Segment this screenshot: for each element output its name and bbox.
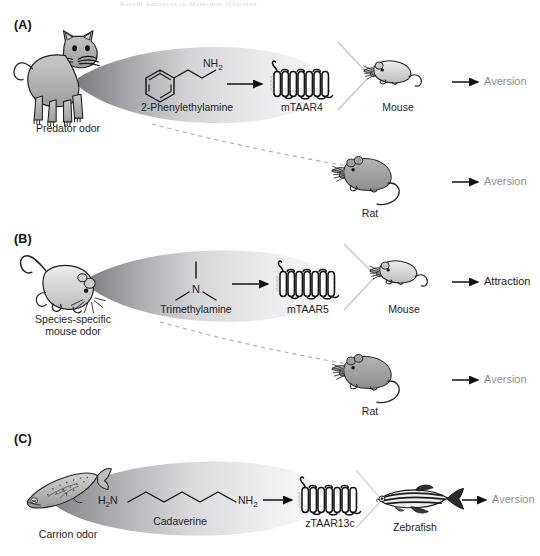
mouse-illustration-a bbox=[364, 61, 422, 86]
ligand-name-b: Trimethylamine bbox=[160, 303, 231, 315]
source-label-b-line2: mouse odor bbox=[45, 325, 100, 337]
outcome-b-mouse: Attraction bbox=[484, 275, 530, 287]
source-label-c: Carrion odor bbox=[39, 528, 97, 540]
panel-label-c: (C) bbox=[14, 432, 32, 446]
animal-label-b-mouse: Mouse bbox=[388, 303, 420, 315]
nh-sub-a: 2 bbox=[218, 63, 222, 72]
nh-sub-c: 2 bbox=[253, 500, 257, 509]
animal-label-b-rat: Rat bbox=[362, 405, 378, 417]
receptor-label-c: zTAAR13c bbox=[305, 517, 354, 529]
h-label-c: H bbox=[98, 494, 106, 506]
source-mouse-illustration bbox=[21, 256, 106, 313]
nh-label-c: NH bbox=[238, 494, 253, 506]
zebrafish-illustration bbox=[377, 485, 464, 513]
receptor-label-b: mTAAR5 bbox=[287, 303, 329, 315]
ligand-name-c: Cadaverine bbox=[153, 515, 207, 527]
animal-label-c: Zebrafish bbox=[393, 521, 437, 533]
outcome-c: Aversion bbox=[492, 493, 535, 505]
figure-artwork bbox=[0, 0, 540, 556]
ligand-amine-group-a: NH2 bbox=[203, 57, 223, 74]
panel-label-b: (B) bbox=[14, 232, 32, 246]
cadaverine-left-amine: H2N bbox=[98, 494, 118, 511]
source-label-a: Predator odor bbox=[36, 122, 100, 134]
animal-label-a-rat: Rat bbox=[362, 207, 378, 219]
panel-a-artwork bbox=[14, 31, 478, 205]
guide-lines-c bbox=[356, 470, 380, 528]
mouse-illustration-b bbox=[370, 261, 428, 286]
figure-taar-odor-signaling: Recent Advances in Molecular Olfaction bbox=[0, 0, 540, 556]
rat-illustration-a bbox=[332, 157, 400, 205]
panel-label-a: (A) bbox=[14, 18, 32, 32]
outcome-b-rat: Aversion bbox=[484, 373, 527, 385]
cadaverine-right-amine: NH2 bbox=[238, 494, 258, 511]
n-label-c: N bbox=[110, 494, 118, 506]
outcome-a-rat: Aversion bbox=[484, 175, 527, 187]
outcome-a-mouse: Aversion bbox=[484, 75, 527, 87]
source-label-b-line1: Species-specific bbox=[35, 313, 111, 325]
nh-label-a: NH bbox=[203, 57, 218, 69]
dashed-odor-path-a bbox=[152, 124, 348, 166]
rat-illustration-b bbox=[332, 355, 400, 403]
nitrogen-atom-label-b: N bbox=[192, 283, 200, 295]
receptor-label-a: mTAAR4 bbox=[281, 101, 323, 113]
animal-label-a-mouse: Mouse bbox=[382, 101, 414, 113]
ligand-name-a: 2-Phenylethylamine bbox=[141, 101, 233, 113]
guide-lines-a bbox=[338, 42, 368, 110]
guide-lines-b bbox=[344, 244, 374, 310]
dashed-odor-path-b bbox=[160, 322, 348, 364]
